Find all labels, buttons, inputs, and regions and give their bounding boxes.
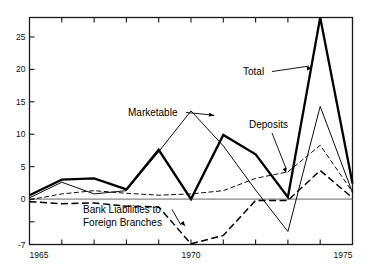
annotation-label-total: Total (243, 66, 264, 77)
y-axis: 2520151050-7 (16, 32, 34, 250)
arrowhead-marketable (209, 113, 214, 117)
annotation-label-deposits: Deposits (249, 119, 288, 130)
chart-container: 2520151050-7 196519701975 Marketable Tot… (0, 0, 379, 278)
y-tick-label: 5 (21, 162, 26, 172)
x-tick-label: 1975 (334, 250, 353, 260)
y-tick-label: 20 (16, 64, 26, 74)
annotation-marketable: Marketable (128, 107, 214, 118)
x-tick-label: 1970 (182, 250, 201, 260)
annotation-label-bank-liabilities-line1: Bank Liabilities to (83, 204, 161, 215)
annotation-total: Total (243, 66, 312, 77)
data-series-group (30, 18, 353, 244)
line-chart: 2520151050-7 196519701975 Marketable Tot… (0, 0, 379, 278)
x-tick-label: 1965 (30, 250, 49, 260)
series-marketable (30, 106, 353, 231)
arrowhead-bank-liabilities (180, 221, 185, 226)
y-tick-label: 25 (16, 32, 26, 42)
leader-line-deposits (272, 133, 286, 169)
y-tick-label: 15 (16, 97, 26, 107)
y-tick-label: 0 (21, 194, 26, 204)
annotation-deposits: Deposits (249, 119, 288, 173)
series-total (30, 18, 353, 200)
annotation-bank-liabilities: Bank Liabilities to Foreign Branches (83, 204, 185, 228)
x-axis-labels: 196519701975 (30, 250, 353, 260)
annotation-label-bank-liabilities-line2: Foreign Branches (83, 217, 162, 228)
leader-line-total (272, 66, 309, 71)
series-bank-liabilities-to-foreign-branches (30, 171, 353, 244)
series-deposits (30, 145, 353, 199)
y-tick-label: -7 (18, 240, 26, 250)
annotations-group: Marketable Total Deposits Bank Liabiliti… (83, 66, 312, 228)
y-tick-label: 10 (16, 129, 26, 139)
plot-frame (30, 18, 353, 245)
annotation-label-marketable: Marketable (128, 107, 178, 118)
